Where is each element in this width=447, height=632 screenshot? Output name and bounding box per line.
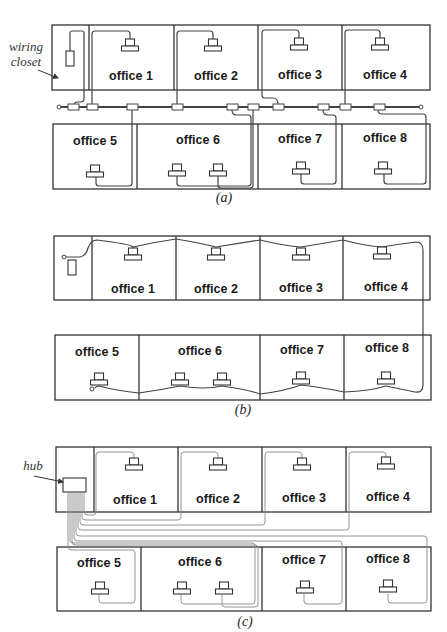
office-2-label: office 2 — [194, 282, 238, 296]
panel-a: wiringcloset — [9, 25, 430, 206]
caption-b: (b) — [235, 402, 252, 418]
office-8-label: office 8 — [365, 341, 409, 355]
hub-arrow-icon — [34, 476, 63, 482]
office-8-label: office 8 — [366, 552, 410, 566]
closet-equipment-icon — [68, 260, 76, 275]
office-6-label: office 6 — [176, 133, 220, 147]
network-wiring-figure: wiringcloset — [0, 0, 447, 632]
hub-label: hub — [23, 458, 43, 473]
office-1-label: office 1 — [109, 69, 153, 83]
office-7-label: office 7 — [278, 132, 322, 146]
office-3-label: office 3 — [278, 68, 322, 82]
office-8-label: office 8 — [363, 131, 407, 145]
office-6-label: office 6 — [178, 344, 222, 358]
wiring-closet-arrow-icon — [38, 70, 58, 78]
panel-c: hub office 1 office 2 office 3 office 4 … — [23, 447, 431, 630]
office-2-label: office 2 — [196, 492, 240, 506]
office-5-label: office 5 — [75, 345, 119, 359]
closet-equipment-icon — [66, 51, 74, 66]
office-6-label: office 6 — [178, 555, 222, 569]
office-1-label: office 1 — [113, 493, 157, 507]
office-3-label: office 3 — [282, 491, 326, 505]
office-7-label: office 7 — [280, 343, 324, 357]
office-4-label: office 4 — [363, 68, 407, 82]
wiring-closet-label: wiringcloset — [9, 39, 43, 69]
office-4-label: office 4 — [366, 490, 410, 504]
caption-c: (c) — [237, 614, 253, 630]
office-2-label: office 2 — [194, 69, 238, 83]
office-3-label: office 3 — [279, 281, 323, 295]
caption-a: (a) — [216, 190, 233, 206]
hub-icon — [63, 478, 86, 492]
office-5-label: office 5 — [77, 556, 121, 570]
office-7-label: office 7 — [282, 553, 326, 567]
panel-b: office 1 office 2 office 3 office 4 offi… — [54, 236, 431, 418]
office-5-label: office 5 — [73, 134, 117, 148]
office-1-label: office 1 — [111, 282, 155, 296]
office-4-label: office 4 — [364, 280, 408, 294]
